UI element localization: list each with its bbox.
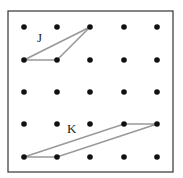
grid-dot	[87, 121, 93, 127]
grid-dot	[121, 24, 127, 30]
grid-dot	[21, 121, 27, 127]
grid-dot	[121, 154, 127, 160]
grid-dot	[87, 89, 93, 95]
grid-dot	[54, 89, 60, 95]
dot-grid-diagram: JK	[0, 0, 183, 178]
shape-k	[24, 124, 157, 157]
grid-dot	[154, 57, 160, 63]
grid-dot	[21, 24, 27, 30]
shape-label-j: J	[37, 30, 42, 45]
grid-dot	[87, 24, 93, 30]
grid-dot	[21, 154, 27, 160]
grid-dot	[154, 89, 160, 95]
grid-dot	[87, 57, 93, 63]
grid-dot	[154, 121, 160, 127]
grid-dot	[54, 121, 60, 127]
grid-dot	[121, 57, 127, 63]
grid-dot	[154, 24, 160, 30]
grid-dot	[54, 24, 60, 30]
grid-dot	[154, 154, 160, 160]
grid-dot	[54, 57, 60, 63]
shape-label-k: K	[67, 121, 77, 136]
grid-dot	[21, 89, 27, 95]
grid-dot	[121, 121, 127, 127]
grid-dot	[21, 57, 27, 63]
grid-dot	[87, 154, 93, 160]
grid-dot	[121, 89, 127, 95]
shape-j	[24, 27, 90, 60]
grid-dot	[54, 154, 60, 160]
